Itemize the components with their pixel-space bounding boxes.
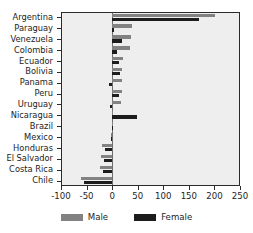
bar-female: [105, 148, 112, 151]
bar-row: [61, 23, 240, 34]
bar-female: [112, 28, 114, 31]
legend-label-female: Female: [161, 213, 192, 222]
bar-female: [84, 181, 112, 184]
legend-swatch-male-icon: [61, 214, 83, 221]
bar-female: [112, 94, 119, 97]
bar-female: [111, 137, 112, 140]
bar-female: [112, 61, 119, 64]
bar-row: [61, 12, 240, 23]
bar-female: [109, 83, 112, 86]
y-axis-label: Nicaragua: [11, 110, 53, 121]
y-axis-label: Paraguay: [14, 23, 53, 34]
x-axis-tick-label: 200: [206, 190, 222, 202]
bar-male: [81, 177, 112, 180]
legend-item-female: Female: [134, 213, 192, 222]
bar-female: [112, 115, 137, 118]
x-axis-tick-label: 100: [155, 190, 171, 202]
y-axis-label: Ecuador: [19, 56, 53, 67]
y-axis-label: Bolivia: [25, 66, 53, 77]
bar-row: [61, 121, 240, 132]
bar-row: [61, 99, 240, 110]
y-axis-label: Colombia: [14, 45, 53, 56]
bar-row: [61, 77, 240, 88]
bar-male: [112, 90, 122, 93]
bar-row: [61, 110, 240, 121]
y-axis-label: Mexico: [24, 132, 53, 143]
y-axis-label: Argentina: [13, 12, 53, 23]
y-axis-label: Peru: [35, 88, 53, 99]
bar-row: [61, 56, 240, 67]
bar-female: [112, 72, 120, 75]
legend-swatch-female-icon: [134, 214, 156, 221]
bar-chart: ArgentinaParaguayVenezuelaColombiaEcuado…: [0, 0, 253, 233]
chart-legend: Male Female: [0, 210, 253, 224]
x-axis-tick-label: -100: [51, 190, 71, 202]
y-axis-label: Uruguay: [18, 99, 53, 110]
y-axis-label: Brazil: [30, 121, 53, 132]
bar-female: [112, 39, 122, 42]
bar-row: [61, 45, 240, 56]
bar-male: [112, 68, 122, 71]
bar-female: [103, 170, 112, 173]
y-axis-label: Panama: [20, 77, 53, 88]
bar-male: [112, 14, 215, 17]
y-axis-label: Honduras: [13, 143, 53, 154]
bar-female: [112, 18, 199, 21]
legend-label-male: Male: [88, 213, 108, 222]
bar-female: [112, 126, 113, 129]
bar-male: [112, 79, 122, 82]
bar-row: [61, 88, 240, 99]
y-axis-label: Venezuela: [10, 34, 53, 45]
y-axis-label: El Salvador: [6, 153, 53, 164]
bar-row: [61, 132, 240, 143]
bar-male: [111, 133, 112, 136]
bar-male: [102, 144, 112, 147]
bar-male: [112, 122, 113, 125]
bar-female: [104, 159, 112, 162]
bar-male: [112, 46, 129, 49]
bar-male: [112, 101, 121, 104]
x-axis-tick-label: 0: [109, 190, 114, 202]
bar-row: [61, 175, 240, 186]
x-axis-tick-label: 150: [181, 190, 197, 202]
bar-male: [112, 35, 130, 38]
bar-male: [100, 166, 112, 169]
x-axis-tick-label: -50: [80, 190, 94, 202]
bar-male: [112, 111, 113, 114]
bar-row: [61, 34, 240, 45]
y-axis-labels: ArgentinaParaguayVenezuelaColombiaEcuado…: [0, 12, 57, 186]
bar-female: [110, 105, 112, 108]
x-axis-tick-label: 250: [232, 190, 248, 202]
x-axis-tick-label: 50: [132, 190, 143, 202]
bar-male: [112, 24, 131, 27]
bar-rows: [61, 12, 240, 186]
bar-row: [61, 66, 240, 77]
y-axis-label: Costa Rica: [9, 164, 53, 175]
bar-row: [61, 164, 240, 175]
legend-item-male: Male: [61, 213, 108, 222]
x-axis-tick-labels: -100-50050100150200250: [0, 190, 253, 202]
bar-row: [61, 153, 240, 164]
bar-row: [61, 143, 240, 154]
bar-female: [112, 50, 117, 53]
y-axis-label: Chile: [32, 175, 53, 186]
bar-male: [101, 155, 112, 158]
bar-male: [112, 57, 123, 60]
